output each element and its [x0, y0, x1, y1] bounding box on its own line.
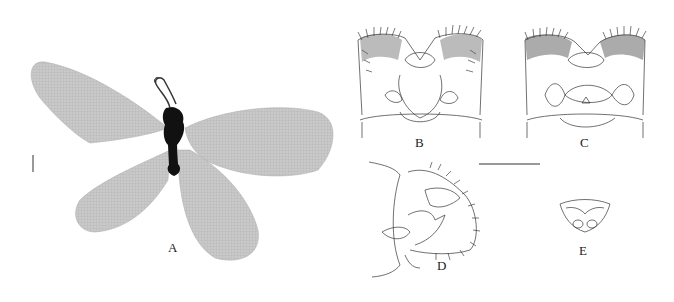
panel-label-e: E: [579, 243, 587, 259]
panel-e-drawing: [0, 0, 674, 302]
panel-label-a: A: [168, 240, 177, 256]
figure-plate: B C: [0, 0, 674, 302]
